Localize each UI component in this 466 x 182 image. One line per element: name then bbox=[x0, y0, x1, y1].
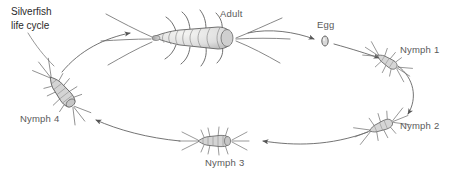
title-line-2: life cycle bbox=[11, 19, 52, 33]
page-title: Silverfish life cycle bbox=[11, 5, 52, 32]
egg-icon bbox=[322, 36, 328, 46]
arrow-nymph2-to-nymph3 bbox=[263, 132, 368, 144]
arrow-adult-to-egg bbox=[248, 31, 314, 39]
title-line-1: Silverfish bbox=[11, 5, 52, 19]
life-cycle-artwork bbox=[0, 0, 466, 182]
stage-label-nymph2: Nymph 2 bbox=[400, 120, 439, 133]
nymph3-silverfish-icon bbox=[179, 127, 249, 155]
arrow-nymph3-to-nymph4 bbox=[96, 120, 180, 141]
stage-label-nymph3: Nymph 3 bbox=[205, 157, 244, 170]
cycle-arrows bbox=[62, 31, 413, 144]
adult-silverfish-icon bbox=[101, 10, 290, 66]
title-leader-line bbox=[28, 33, 54, 66]
label-leader-lines bbox=[28, 33, 54, 66]
stage-label-egg: Egg bbox=[317, 19, 335, 32]
stage-label-adult: Adult bbox=[220, 8, 243, 21]
silverfish-life-cycle-diagram: Silverfish life cycle Adult Egg Nymph 1 … bbox=[0, 0, 466, 182]
arrow-nymph4-to-adult bbox=[62, 33, 130, 72]
stage-label-nymph4: Nymph 4 bbox=[20, 113, 59, 126]
stage-label-nymph1: Nymph 1 bbox=[400, 44, 439, 57]
